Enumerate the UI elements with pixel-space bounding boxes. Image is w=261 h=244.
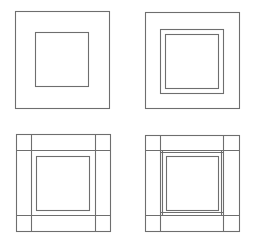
inner-square: [37, 157, 90, 211]
panel-bottom-left-grid-frame: [17, 135, 111, 232]
square-frame-diagram: [0, 0, 261, 244]
inner-square: [166, 35, 219, 89]
inner-square: [36, 33, 89, 87]
inner-square: [167, 157, 219, 211]
outer-square: [17, 135, 111, 232]
outer-square: [16, 12, 110, 109]
inner-square: [161, 30, 224, 94]
outer-square: [146, 13, 240, 109]
panel-bottom-right-grid-double-frame: [146, 136, 240, 232]
panel-top-left-square-in-square: [16, 12, 110, 109]
outer-square: [146, 136, 240, 232]
panel-top-right-double-inner-square: [146, 13, 240, 109]
